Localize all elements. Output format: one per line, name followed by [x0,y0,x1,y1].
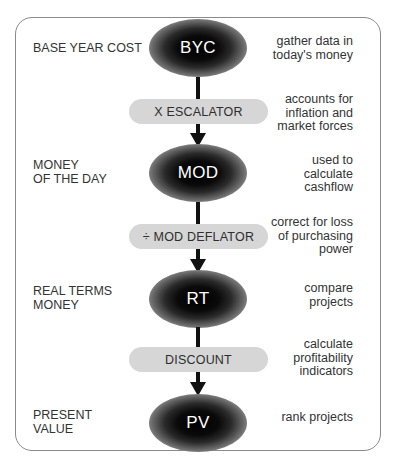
label-money-of-the-day: MONEY OF THE DAY [33,158,107,186]
node-rt: RT [149,270,247,328]
note-line: compare [304,282,353,296]
note-rt: compare projects [304,282,353,309]
note-byc: gather data in today's money [273,35,353,62]
note-line: of purchasing [271,230,353,244]
note-line: calculate [293,338,353,352]
note-line: gather data in [273,35,353,49]
node-label: RT [187,289,210,309]
note-pv: rank projects [281,411,353,425]
label-base-year-cost: BASE YEAR COST [33,41,142,55]
note-mod: used to calculate cashflow [304,154,353,195]
note-line: inflation and [277,107,353,121]
note-line: cashflow [304,181,353,195]
note-escalator: accounts for inflation and market forces [277,93,353,134]
note-line: power [271,243,353,257]
note-line: accounts for [277,93,353,107]
note-line: correct for loss [271,216,353,230]
note-line: market forces [277,120,353,134]
note-line: calculate [304,168,353,182]
op-label: X ESCALATOR [154,105,243,119]
op-mod-deflator: ÷ MOD DEFLATOR [129,224,268,249]
connector-line [196,77,200,99]
label-line: BASE YEAR COST [33,41,142,55]
note-discount: calculate profitability indicators [293,338,353,379]
op-discount: DISCOUNT [129,347,268,372]
note-deflator: correct for loss of purchasing power [271,216,353,257]
connector-line [196,202,200,224]
note-line: used to [304,154,353,168]
node-mod: MOD [149,144,247,202]
op-label: ÷ MOD DEFLATOR [143,230,254,244]
node-label: BYC [180,38,216,58]
label-line: OF THE DAY [33,172,107,186]
label-real-terms-money: REAL TERMS MONEY [33,284,112,312]
label-present-value: PRESENT VALUE [33,408,92,436]
label-line: PRESENT [33,408,92,422]
note-line: today's money [273,49,353,63]
note-line: profitability [293,352,353,366]
node-byc: BYC [149,19,247,77]
label-line: REAL TERMS [33,284,112,298]
op-label: DISCOUNT [165,353,232,367]
node-pv: PV [149,394,247,452]
note-line: indicators [293,365,353,379]
connector-line [196,327,200,347]
note-line: projects [304,296,353,310]
note-line: rank projects [281,411,353,425]
label-line: MONEY [33,298,112,312]
node-label: MOD [178,163,219,183]
node-label: PV [186,413,209,433]
label-line: MONEY [33,158,107,172]
op-escalator: X ESCALATOR [129,99,268,124]
label-line: VALUE [33,422,92,436]
